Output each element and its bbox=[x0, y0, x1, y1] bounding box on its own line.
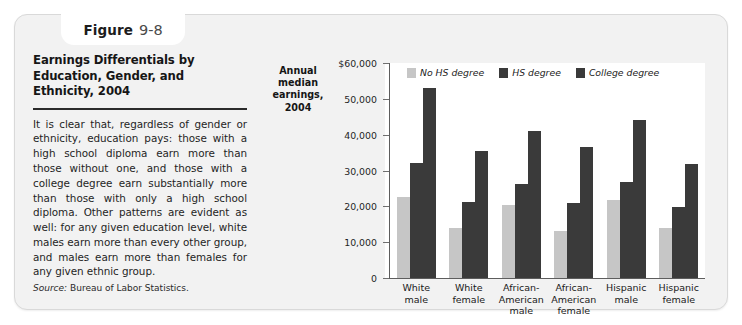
x-axis-line bbox=[389, 278, 705, 279]
bar bbox=[528, 131, 541, 278]
x-axis-category-line: White bbox=[444, 282, 494, 294]
x-axis-category-line: male bbox=[391, 294, 441, 306]
y-axis-title: Annual median earnings, 2004 bbox=[267, 65, 329, 114]
figure-text-column: Earnings Differentials by Education, Gen… bbox=[33, 53, 247, 293]
y-axis-tick-label: 20,000 bbox=[344, 201, 377, 212]
bar bbox=[672, 207, 685, 278]
figure-title: Earnings Differentials by Education, Gen… bbox=[33, 53, 247, 100]
bar bbox=[659, 228, 672, 278]
y-axis-tick-label: 30,000 bbox=[344, 165, 377, 176]
bar-group bbox=[449, 63, 488, 278]
bar bbox=[685, 164, 698, 278]
figure-body-text: It is clear that, regardless of gender o… bbox=[33, 117, 247, 279]
x-axis-category-line: female bbox=[444, 294, 494, 306]
bar bbox=[554, 231, 567, 278]
source-label: Source: bbox=[33, 283, 67, 293]
x-axis-labels: WhitemaleWhitefemaleAfrican-Americanmale… bbox=[390, 282, 705, 317]
bar-group bbox=[607, 63, 646, 278]
bar bbox=[462, 202, 475, 278]
x-axis-category-label: African-Americanmale bbox=[496, 282, 546, 317]
figure-card: Figure 9-8 Earnings Differentials by Edu… bbox=[14, 14, 728, 310]
figure-number-tab: Figure 9-8 bbox=[61, 14, 185, 45]
y-axis-tick-label: 0 bbox=[371, 273, 377, 284]
bar bbox=[410, 163, 423, 278]
y-axis-tick-label: $60,000 bbox=[338, 58, 377, 69]
y-axis-tick-label: 50,000 bbox=[344, 93, 377, 104]
x-axis-category-line: Hispanic bbox=[654, 282, 704, 294]
x-axis-category-line: male bbox=[496, 305, 546, 317]
x-axis-category-line: female bbox=[549, 305, 599, 317]
x-axis-category-line: African- bbox=[549, 282, 599, 294]
bar bbox=[397, 197, 410, 278]
bar bbox=[633, 120, 646, 278]
bar-group bbox=[554, 63, 593, 278]
x-axis-category-line: White bbox=[391, 282, 441, 294]
x-axis-category-line: Hispanic bbox=[601, 282, 651, 294]
bar-group bbox=[659, 63, 698, 278]
figure-source: Source: Bureau of Labor Statistics. bbox=[33, 283, 247, 293]
x-axis-category-line: female bbox=[654, 294, 704, 306]
bar bbox=[423, 88, 436, 278]
bar-group bbox=[397, 63, 436, 278]
bar bbox=[580, 147, 593, 279]
bar bbox=[515, 184, 528, 278]
source-text: Bureau of Labor Statistics. bbox=[67, 283, 189, 293]
bar bbox=[449, 228, 462, 278]
bar bbox=[502, 205, 515, 278]
x-axis-category-line: American bbox=[549, 294, 599, 306]
x-axis-category-label: Hispanicmale bbox=[601, 282, 651, 317]
y-axis-tick-label: 40,000 bbox=[344, 129, 377, 140]
x-axis-category-line: American bbox=[496, 294, 546, 306]
figure-number: 9-8 bbox=[139, 22, 163, 38]
bar bbox=[620, 182, 633, 278]
title-divider bbox=[33, 108, 247, 110]
x-axis-category-label: Whitemale bbox=[391, 282, 441, 317]
chart: Annual median earnings, 2004 No HS degre… bbox=[267, 51, 713, 299]
x-axis-category-line: male bbox=[601, 294, 651, 306]
x-axis-category-label: Hispanicfemale bbox=[654, 282, 704, 317]
y-axis-labels: 010,00020,00030,00040,00050,000$60,000 bbox=[323, 63, 383, 279]
x-axis-category-label: Whitefemale bbox=[444, 282, 494, 317]
x-axis-category-line: African- bbox=[496, 282, 546, 294]
bar-group bbox=[502, 63, 541, 278]
x-axis-category-label: African-Americanfemale bbox=[549, 282, 599, 317]
figure-label: Figure bbox=[83, 22, 133, 38]
y-axis-tick-label: 10,000 bbox=[344, 237, 377, 248]
bar-groups bbox=[390, 63, 705, 278]
bar bbox=[607, 200, 620, 278]
bar bbox=[567, 203, 580, 278]
bar bbox=[475, 151, 488, 278]
